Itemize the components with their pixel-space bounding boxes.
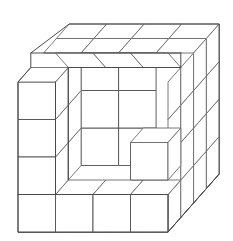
step-cube-group xyxy=(131,128,181,180)
front-bottom-cell-3 xyxy=(93,195,131,233)
recess-back-cell-c2-r2 xyxy=(119,91,157,129)
front-bottom-cell-1 xyxy=(18,195,56,233)
left-wall-cell-r4 xyxy=(18,82,56,120)
front-bottom-cell-2 xyxy=(56,195,94,233)
front-bottom-cell-4 xyxy=(131,195,169,233)
left-wall-cell-r3 xyxy=(18,120,56,158)
front-bottom-row-group xyxy=(18,195,168,233)
left-wall-cell-r2 xyxy=(18,157,56,195)
figure-root xyxy=(0,0,233,241)
recess-back-cell-c1-r2 xyxy=(81,91,119,129)
recess-back-cell-c1-r3 xyxy=(81,128,119,166)
top-face-group xyxy=(44,24,220,53)
step-cube-front xyxy=(131,143,169,181)
isometric-cube-stack-svg xyxy=(0,0,233,241)
